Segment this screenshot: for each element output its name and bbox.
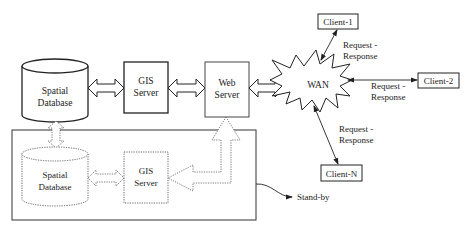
spatial-database-node: Spatial Database: [22, 59, 88, 122]
client-2-node: Client-2: [418, 73, 459, 88]
web-server-label-1: Web: [218, 78, 235, 88]
client-2-label: Client-2: [424, 76, 454, 86]
standby-database-label-2: Database: [39, 182, 72, 192]
gis-server-label-1: GIS: [138, 76, 153, 86]
client-1-label: Client-1: [323, 17, 353, 27]
standby-gis-label-2: Server: [134, 178, 158, 188]
client-n-edge-label-2: Response: [339, 135, 374, 145]
standby-gis-label-1: GIS: [139, 166, 154, 176]
web-server-node: Web Server: [205, 62, 249, 117]
gis-server-label-2: Server: [134, 88, 160, 98]
gis-web-double-arrow: [168, 79, 205, 97]
db-replication-double-arrow: [48, 121, 64, 148]
standby-callout-curve: [256, 184, 292, 197]
wan-label: WAN: [307, 80, 329, 90]
standby-spatial-database-node: Spatial Database: [22, 147, 88, 206]
architecture-diagram: Spatial Database GIS Server Web Server W…: [0, 0, 471, 232]
client-n-node: Client-N: [321, 165, 362, 181]
wan-client-1-link: [321, 30, 337, 60]
client-2-edge-label-2: Response: [371, 92, 406, 102]
client-1-edge-label-1: Request -: [343, 40, 377, 50]
wan-cloud-node: WAN: [270, 50, 352, 112]
gis-server-node: GIS Server: [124, 62, 168, 113]
web-server-label-2: Server: [215, 90, 241, 100]
standby-gis-server-node: GIS Server: [124, 152, 168, 203]
spatial-database-label-1: Spatial: [42, 86, 69, 96]
db-gis-double-arrow: [88, 79, 124, 97]
client-n-label: Client-N: [326, 169, 358, 179]
standby-database-label-1: Spatial: [43, 170, 68, 180]
client-2-edge-label-1: Request -: [371, 81, 405, 91]
standby-db-gis-double-arrow: [88, 170, 124, 186]
failover-arrow: [168, 117, 240, 191]
standby-label: Stand-by: [297, 192, 330, 202]
wan-client-n-link: [314, 106, 338, 164]
spatial-database-label-2: Database: [38, 98, 73, 108]
client-1-node: Client-1: [318, 14, 358, 29]
client-n-edge-label-1: Request -: [339, 124, 373, 134]
client-1-edge-label-2: Response: [343, 51, 378, 61]
